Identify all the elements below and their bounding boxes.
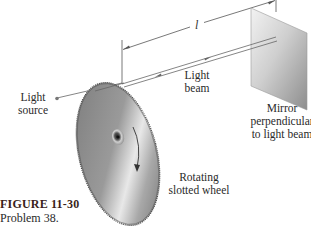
diagram-canvas: l Light beam Light source Mirror perpend… [0, 0, 311, 228]
arrowhead-left-icon [123, 46, 130, 50]
mirror [251, 8, 307, 110]
light-source-dot [55, 97, 59, 101]
arrowhead-right-icon [268, 1, 275, 5]
mirror-label-2: perpendicular [250, 115, 311, 128]
light-beam-label-2: beam [185, 82, 210, 94]
wheel-label-1: Rotating [179, 171, 219, 184]
light-source-label-2: source [18, 104, 48, 116]
mirror-label-1: Mirror [267, 102, 298, 114]
mirror-label-3: to light beam [252, 128, 311, 141]
figure-caption-text: Problem 38. [0, 211, 59, 225]
distance-label: l [195, 18, 199, 32]
wheel-label-2: slotted wheel [169, 184, 230, 196]
figure-diagram: l Light beam Light source Mirror perpend… [0, 0, 311, 228]
light-beam-label-1: Light [185, 69, 211, 82]
light-source-label-1: Light [21, 91, 47, 104]
figure-caption-title: FIGURE 11-30 [0, 197, 79, 211]
